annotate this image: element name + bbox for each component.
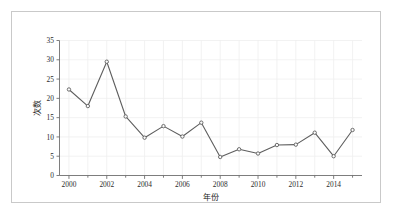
data-point [313,131,316,134]
figure-canvas: 05101520253035 2000200220042006200820102… [0,0,393,215]
data-point [332,155,335,158]
line-chart: 05101520253035 2000200220042006200820102… [0,0,393,215]
data-point [219,155,222,158]
data-point [181,135,184,138]
data-point [200,121,203,124]
y-tick-label: 35 [47,36,55,45]
y-tick-label: 15 [47,113,55,122]
x-tick-labels: 20002002200420062008201020122014 [62,180,342,189]
x-tick-label: 2000 [62,180,77,189]
x-tick-label: 2012 [288,180,303,189]
y-tick-label: 25 [47,75,55,84]
x-tick-label: 2004 [137,180,152,189]
data-series [69,62,353,157]
data-point [237,148,240,151]
data-markers [67,60,354,159]
y-tick-label: 0 [50,171,54,180]
x-tick-label: 2008 [213,180,228,189]
x-tick-label: 2014 [326,180,341,189]
data-point [86,104,89,107]
data-point [124,115,127,118]
tick-marks [57,41,353,179]
data-point [275,143,278,146]
data-point [351,128,354,131]
y-tick-labels: 05101520253035 [47,36,55,180]
y-tick-label: 20 [47,94,55,103]
data-point [105,60,108,63]
x-axis-title: 年份 [203,192,219,202]
data-point [162,124,165,127]
y-tick-label: 10 [47,133,55,142]
y-axis-title: 次数 [32,100,42,116]
x-tick-label: 2010 [251,180,266,189]
data-point [67,88,70,91]
y-tick-label: 5 [50,152,54,161]
data-point [143,136,146,139]
y-tick-label: 30 [47,55,55,64]
data-point [256,152,259,155]
x-tick-label: 2006 [175,180,190,189]
x-tick-label: 2002 [99,180,114,189]
data-point [294,143,297,146]
